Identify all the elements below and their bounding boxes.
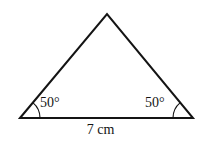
triangle-diagram-svg xyxy=(0,0,201,141)
geometry-figure: 50° 50° 7 cm xyxy=(0,0,201,141)
angle-label-right: 50° xyxy=(145,96,165,110)
base-length-label: 7 cm xyxy=(0,123,201,137)
angle-label-left: 50° xyxy=(40,96,60,110)
